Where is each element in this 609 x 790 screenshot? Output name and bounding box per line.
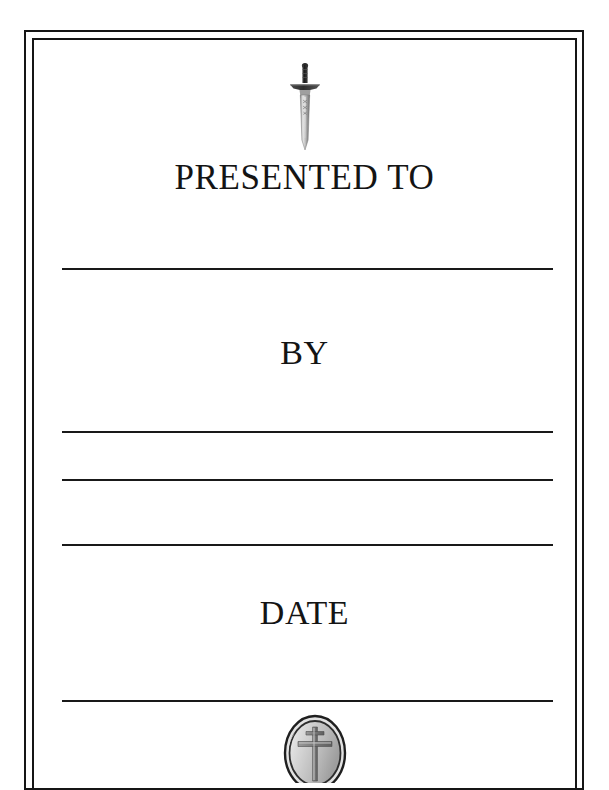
date-line[interactable]	[62, 700, 553, 702]
heading-date: DATE	[0, 594, 609, 632]
cross-medallion-icon	[283, 713, 347, 783]
presenter-line-1[interactable]	[62, 431, 553, 433]
heading-presented-to: PRESENTED TO	[0, 159, 609, 197]
heading-by: BY	[0, 334, 609, 372]
presenter-line-2[interactable]	[62, 479, 553, 481]
sword-icon	[288, 62, 322, 152]
presenter-line-3[interactable]	[62, 544, 553, 546]
recipient-name-line[interactable]	[62, 268, 553, 270]
